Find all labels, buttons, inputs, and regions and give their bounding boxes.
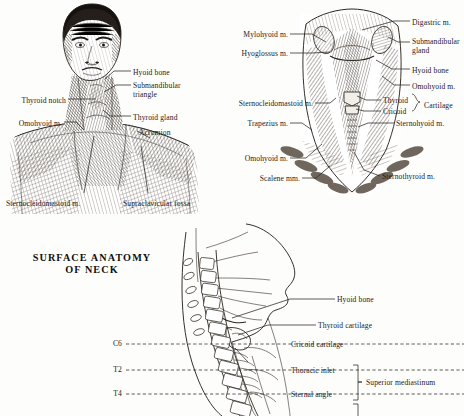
- label-cricoid-fig2: Cricoid: [383, 107, 406, 116]
- figure-title-surface-anatomy-of-neck: SURFACE ANATOMY OF NECK: [22, 252, 162, 277]
- label-acromion-fig1: Acromion: [139, 128, 171, 137]
- label-sternocleidomastoid-m-fig2: Sternocleidomastoid m.: [213, 99, 313, 108]
- label-vertebra-c6: C6: [98, 339, 122, 348]
- head-shading: [58, 0, 128, 86]
- label-thyroid-notch-fig1: Thyroid notch: [0, 96, 66, 105]
- label-digastric-m-fig2: Digastric m.: [412, 18, 451, 27]
- label-submandibular-triangle-fig1: Submandibular triangle: [133, 81, 181, 100]
- label-hyoid-bone-fig2: Hyoid bone: [412, 66, 449, 75]
- vertebral-column: [182, 250, 278, 416]
- label-vertebra-t2: T2: [98, 365, 122, 374]
- label-thyroid-fig2: Thyroid: [383, 96, 408, 105]
- label-hyoid-bone-fig1: Hyoid bone: [133, 68, 170, 77]
- label-trapezius-m-fig2: Trapezius m.: [213, 119, 288, 128]
- label-thyroid-gland-fig1: Thyroid gland: [133, 113, 178, 122]
- label-thyroid-cartilage-fig3: Thyroid cartilage: [318, 321, 372, 330]
- label-submandibular-gland-text: Submandibular gland: [412, 37, 460, 56]
- label-omohyoid-m-left-fig2: Omohyoid m.: [213, 154, 288, 163]
- label-sternal-angle-fig3: Sternal angle: [291, 390, 332, 399]
- label-cartilage-fig2: Cartilage: [424, 101, 453, 110]
- label-sternocleidomastoid-m-fig1: Sternocleidomastoid m.: [6, 199, 80, 208]
- label-omohyoid-m-right-fig2: Omohyoid m.: [412, 82, 455, 91]
- label-omohyoid-m-fig1: Omohyoid m.: [0, 119, 62, 128]
- figure-sagittal-section-drawing: [182, 224, 295, 416]
- label-sternothyroid-m-fig2: Sternothyroid m.: [382, 172, 435, 181]
- label-superior-mediastinum-fig3: Superior mediastinum: [366, 378, 435, 387]
- label-scalene-mm-fig2: Scalene mm.: [225, 174, 300, 183]
- label-vertebra-t4: T4: [98, 389, 122, 398]
- label-supraclavicular-fossa-fig1: Supraclavicular fossa: [123, 199, 190, 208]
- label-sternohyoid-m-fig2: Sternohyoid m.: [396, 119, 444, 128]
- label-submandibular-gland-fig2: Submandibular gland: [412, 37, 460, 56]
- label-cricoid-cartilage-fig3: Cricoid cartilage: [291, 340, 344, 349]
- anatomy-plate: Hyoid bone Submandibular triangle Thyroi…: [0, 0, 464, 416]
- label-thoracic-inlet-fig3: Thoracic inlet: [291, 366, 335, 375]
- label-hyoglossus-m-fig2: Hyoglossus m.: [208, 49, 288, 58]
- label-hyoid-bone-fig3: Hyoid bone: [337, 295, 374, 304]
- label-mylohyoid-m-fig2: Mylohyoid m.: [208, 30, 288, 39]
